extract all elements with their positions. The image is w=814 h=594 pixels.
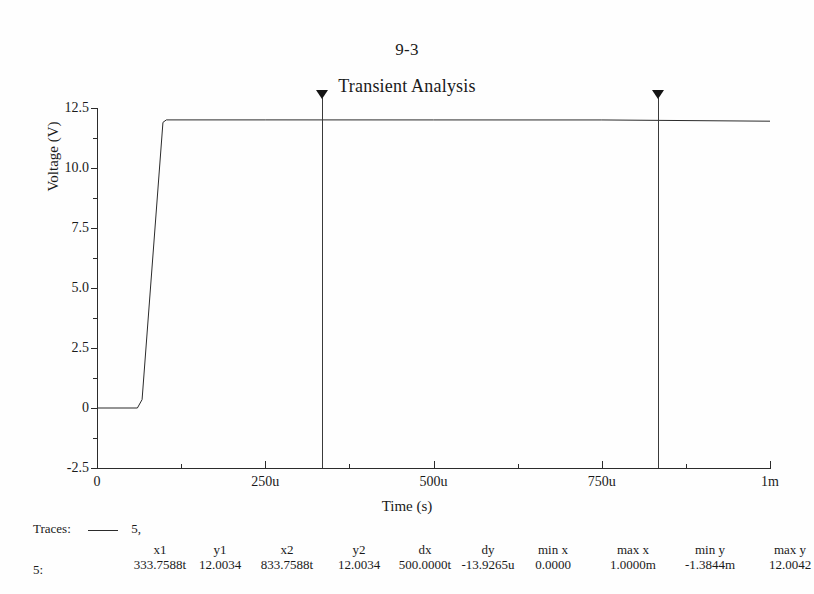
- readout-header-y1: y1: [214, 543, 227, 557]
- readout-value-x2: 833.7588t: [261, 558, 313, 572]
- plot-area: 12.510.07.55.02.50-2.5 0250u500u750u1m: [97, 108, 770, 468]
- trace-line-5: [97, 120, 770, 408]
- readout-header-x1: x1: [154, 543, 167, 557]
- x-tick-label-2: 500u: [420, 474, 448, 490]
- cursor-1[interactable]: [322, 98, 323, 468]
- readout-header-min-y: min y: [695, 543, 725, 557]
- y-axis-title: Voltage (V): [45, 77, 62, 237]
- readout-value-y2: 12.0034: [338, 558, 380, 572]
- x-tick-label-4: 1m: [761, 474, 779, 490]
- document-number: 9-3: [0, 40, 814, 60]
- y-tick-label-4: 2.5: [29, 341, 89, 355]
- readout-value-min-x: 0.0000: [535, 558, 571, 572]
- readout-header-x2: x2: [281, 543, 294, 557]
- readout-value-dy: -13.9265u: [461, 558, 514, 572]
- y-tick-label-3: 5.0: [29, 281, 89, 295]
- cursor-2-handle-icon[interactable]: [652, 90, 664, 99]
- legend: Traces: 5,: [33, 521, 141, 537]
- legend-line-swatch: [88, 530, 118, 531]
- x-axis-tick-labels: 0250u500u750u1m: [97, 474, 771, 496]
- readout-header-y2: y2: [353, 543, 366, 557]
- readout-value-dx: 500.0000t: [399, 558, 451, 572]
- waveform-trace: [97, 108, 771, 469]
- readout-header-dy: dy: [482, 543, 495, 557]
- readout-header-dx: dx: [419, 543, 432, 557]
- readout-header-min-x: min x: [538, 543, 568, 557]
- cursor-2[interactable]: [658, 98, 659, 468]
- readout-header-max-y: max y: [774, 543, 806, 557]
- y-tick-label-5: 0: [29, 401, 89, 415]
- y-tick-label-6: -2.5: [29, 461, 89, 475]
- readout-value-min-y: -1.3844m: [685, 558, 735, 572]
- x-tick-label-3: 750u: [588, 474, 616, 490]
- x-tick-label-0: 0: [94, 474, 101, 490]
- readout-value-max-y: 12.0042: [769, 558, 811, 572]
- readout-header-max-x: max x: [617, 543, 649, 557]
- page-canvas: 9-3 Transient Analysis 12.510.07.55.02.5…: [0, 0, 814, 594]
- x-axis-title: Time (s): [0, 498, 814, 515]
- readout-value-y1: 12.0034: [199, 558, 241, 572]
- legend-label: Traces:: [33, 521, 71, 537]
- readout-row-label: 5:: [33, 562, 43, 578]
- legend-trace-name[interactable]: 5,: [131, 521, 141, 537]
- cursor-1-handle-icon[interactable]: [316, 90, 328, 99]
- readout-value-max-x: 1.0000m: [610, 558, 656, 572]
- x-tick-label-1: 250u: [251, 474, 279, 490]
- readout-value-x1: 333.7588t: [134, 558, 186, 572]
- cursor-readout-table: 5: x1333.7588ty112.0034x2833.7588ty212.0…: [0, 543, 814, 583]
- chart-title: Transient Analysis: [0, 76, 814, 97]
